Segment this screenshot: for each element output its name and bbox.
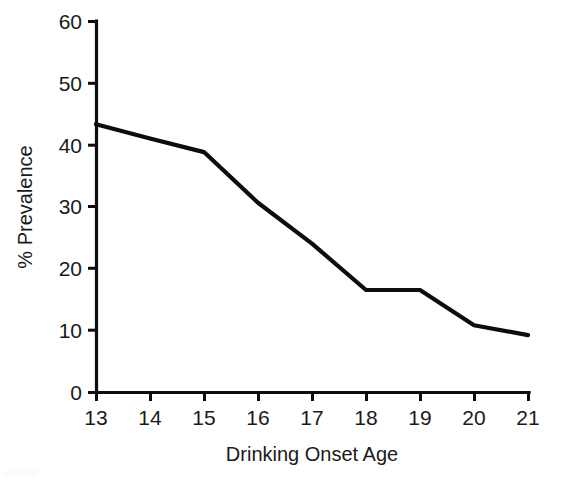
x-tick-label-21: 21	[516, 406, 539, 429]
chart-page: 60 50 40 30 20 10 0 13 14 15 16 17 18 19…	[0, 0, 563, 481]
x-tick-label-19: 19	[408, 406, 431, 429]
x-axis-title: Drinking Onset Age	[226, 443, 398, 465]
x-tick-label-20: 20	[462, 406, 485, 429]
x-tick-label-15: 15	[192, 406, 215, 429]
y-tick-label-50: 50	[59, 72, 82, 95]
x-tick-label-16: 16	[246, 406, 269, 429]
x-tick-label-17: 17	[300, 406, 323, 429]
y-tick-label-60: 60	[59, 10, 82, 33]
x-tick-label-13: 13	[84, 406, 107, 429]
y-tick-label-10: 10	[59, 319, 82, 342]
y-tick-label-0: 0	[70, 381, 82, 404]
scan-artifact	[4, 470, 38, 477]
x-tick-label-14: 14	[138, 406, 162, 429]
y-tick-label-20: 20	[59, 257, 82, 280]
x-tick-label-18: 18	[354, 406, 377, 429]
y-tick-label-40: 40	[59, 134, 82, 157]
x-tick-labels: 13 14 15 16 17 18 19 20 21	[84, 406, 539, 429]
prevalence-line-chart: 60 50 40 30 20 10 0 13 14 15 16 17 18 19…	[0, 0, 563, 481]
y-tick-label-30: 30	[59, 195, 82, 218]
y-axis-title: % Prevalence	[14, 145, 36, 268]
